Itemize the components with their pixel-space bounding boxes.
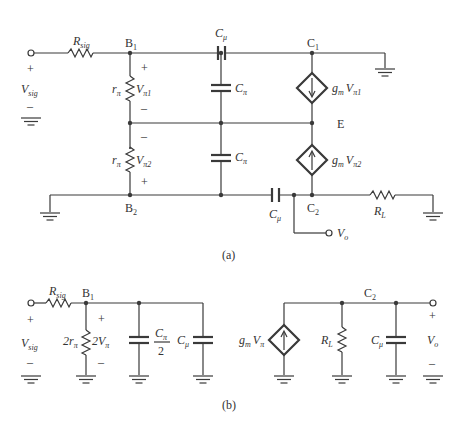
rpi2-resistor [126, 147, 134, 172]
vo-terminal-b [430, 300, 436, 306]
vpi1-minus: – [140, 101, 148, 115]
ground-icon [423, 376, 443, 383]
ground-icon [21, 118, 41, 125]
cmu-in-label: Cμ [177, 333, 189, 349]
ground-icon [193, 376, 213, 383]
v2pi-label: 2Vπ [92, 334, 110, 350]
cpi-half-label: Cπ 2 [154, 326, 170, 358]
node-e: E [337, 117, 344, 131]
panel-b: + Vsig – Rsig B1 + 2rπ 2Vπ – Cπ 2 Cμ [21, 284, 443, 412]
node-c2-b: C2 [364, 286, 376, 302]
vpi2-minus: – [140, 129, 148, 143]
rl-resistor [370, 191, 395, 199]
rpi2-label: rπ [112, 153, 122, 169]
ground-icon [386, 376, 406, 383]
rpi1-label: rπ [112, 82, 122, 98]
vo-terminal [326, 230, 332, 236]
circuit-figure: + Vsig – Rsig B1 + rπ Vπ1 – – rπ Vπ2 + B… [0, 0, 468, 421]
rsig-resistor-b [46, 299, 71, 307]
ground-icon [21, 376, 41, 383]
ground-icon [332, 376, 352, 383]
vo-plus-b: + [429, 309, 436, 323]
cpi2-label: Cπ [235, 150, 248, 166]
gm-label-b: gmVπ [239, 333, 265, 349]
node-b1-b: B1 [82, 286, 94, 302]
rl-label: RL [373, 204, 386, 220]
vsig-terminal [28, 50, 34, 56]
vsig-plus: + [27, 62, 34, 76]
vpi1-plus: + [141, 61, 148, 75]
rsig-label-b: Rsig [48, 284, 66, 300]
cmu-out-label: Cμ [371, 333, 383, 349]
node-b1: B1 [125, 36, 137, 52]
ground-icon [129, 376, 149, 383]
ground-icon [375, 69, 395, 76]
vpi2-label: Vπ2 [136, 153, 151, 169]
v2pi-plus: + [98, 312, 105, 326]
node-b2: B2 [125, 201, 137, 217]
rl-resistor-b [338, 327, 346, 352]
cmu2-label: Cμ [269, 207, 281, 223]
ground-icon [274, 376, 294, 383]
vsig-minus: – [26, 99, 34, 113]
svg-text:Cπ: Cπ [155, 326, 168, 342]
ground-icon [76, 376, 96, 383]
cpi1-label: Cπ [235, 81, 248, 97]
rl-label-b: RL [320, 333, 333, 349]
cmu1-label: Cμ [215, 26, 227, 42]
vpi1-label: Vπ1 [136, 82, 151, 98]
v2pi-minus: – [97, 355, 105, 369]
vo-label-b: Vo [427, 333, 438, 349]
caption-a: (a) [222, 248, 235, 262]
vsig-label: Vsig [21, 82, 38, 98]
vsig-plus-b: + [27, 313, 34, 327]
node-c2: C2 [307, 201, 319, 217]
rsig-label: Rsig [72, 34, 90, 50]
node-c1: C1 [307, 36, 319, 52]
r2pi-label: 2rπ [63, 334, 79, 350]
rsig-resistor [68, 49, 93, 57]
vsig-label-b: Vsig [21, 336, 38, 352]
r2pi-resistor [82, 330, 90, 355]
gm2-label: gmVπ2 [332, 153, 361, 169]
gm1-label: gmVπ1 [332, 81, 361, 97]
ground-icon [423, 213, 443, 220]
panel-a: + Vsig – Rsig B1 + rπ Vπ1 – – rπ Vπ2 + B… [21, 26, 443, 262]
vo-minus-b: – [428, 356, 436, 370]
caption-b: (b) [222, 398, 236, 412]
vsig-terminal-b [28, 300, 34, 306]
svg-text:2: 2 [158, 344, 164, 358]
vpi2-plus: + [141, 175, 148, 189]
rpi1-resistor [126, 76, 134, 101]
ground-icon [40, 213, 60, 220]
vsig-minus-b: – [26, 355, 34, 369]
vo-label: Vo [337, 226, 348, 242]
